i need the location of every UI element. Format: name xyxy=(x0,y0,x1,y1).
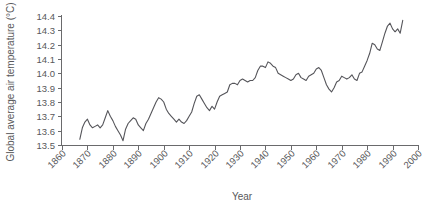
temperature-line-chart: 13.513.613.713.813.914.014.114.214.314.4… xyxy=(0,0,433,208)
x-tick-label: 2000 xyxy=(401,148,424,171)
y-tick-label: 14.0 xyxy=(37,68,56,79)
y-tick-label: 14.4 xyxy=(37,11,56,22)
y-tick-label: 13.8 xyxy=(37,97,56,108)
x-tick-label: 1970 xyxy=(325,148,348,171)
y-tick-label: 13.9 xyxy=(37,83,56,94)
y-axis-ticks xyxy=(58,17,62,146)
series-line xyxy=(80,20,403,140)
y-axis-tick-labels: 13.513.613.713.813.914.014.114.214.314.4 xyxy=(37,11,56,151)
y-tick-label: 14.2 xyxy=(37,40,56,51)
x-axis-tick-labels: 1860187018801890190019101920193019401950… xyxy=(45,148,424,171)
x-tick-label: 1940 xyxy=(248,148,271,171)
y-tick-label: 13.7 xyxy=(37,111,56,122)
x-tick-label: 1930 xyxy=(223,148,246,171)
y-tick-label: 14.3 xyxy=(37,25,56,36)
x-tick-label: 1870 xyxy=(70,148,93,171)
series-group xyxy=(80,20,403,140)
x-tick-label: 1890 xyxy=(121,148,144,171)
x-tick-label: 1990 xyxy=(376,148,399,171)
x-tick-label: 1950 xyxy=(274,148,297,171)
x-tick-label: 1980 xyxy=(350,148,373,171)
y-tick-label: 14.1 xyxy=(37,54,56,65)
x-axis-title: Year xyxy=(232,191,253,202)
chart-figure: 13.513.613.713.813.914.014.114.214.314.4… xyxy=(0,0,433,208)
x-tick-label: 1960 xyxy=(299,148,322,171)
x-tick-label: 1880 xyxy=(96,148,119,171)
x-tick-label: 1900 xyxy=(147,148,170,171)
y-axis-title: Global average air temperature (°C) xyxy=(5,2,16,161)
x-tick-label: 1920 xyxy=(198,148,221,171)
y-tick-label: 13.6 xyxy=(37,126,56,137)
x-tick-label: 1910 xyxy=(172,148,195,171)
y-tick-label: 13.5 xyxy=(37,140,56,151)
